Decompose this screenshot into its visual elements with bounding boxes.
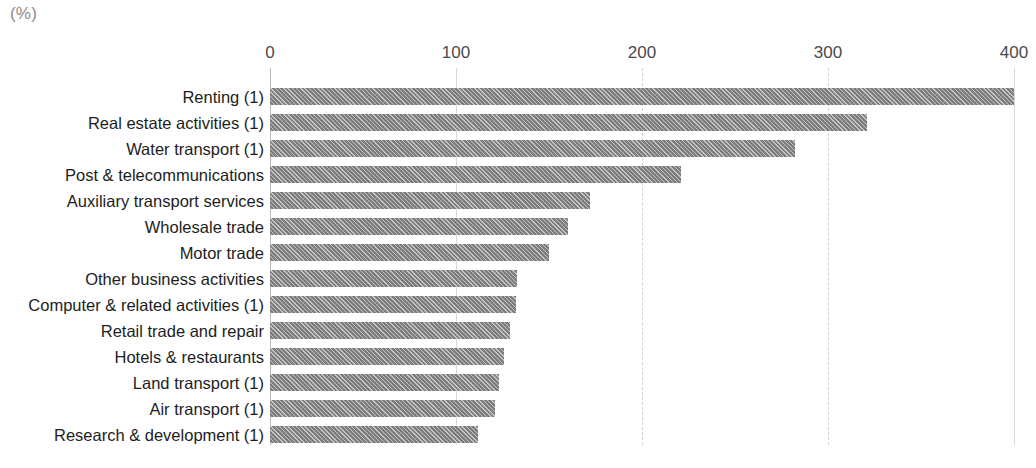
x-tick-label-300: 300 [814,43,842,63]
bar-row: Wholesale trade [0,214,1036,240]
x-tick-label-100: 100 [442,43,470,63]
x-tick-label-0: 0 [265,43,274,63]
bar-row: Motor trade [0,240,1036,266]
bar-category-label: Air transport (1) [149,396,264,422]
bar-row: Renting (1) [0,84,1036,110]
bar-category-label: Real estate activities (1) [88,110,264,136]
bar [270,192,590,209]
bar-category-label: Hotels & restaurants [115,344,264,370]
bar [270,296,516,313]
bar-category-label: Auxiliary transport services [67,188,264,214]
bar-row: Retail trade and repair [0,318,1036,344]
bar-category-label: Water transport (1) [126,136,264,162]
bar [270,374,499,391]
bar-row: Land transport (1) [0,370,1036,396]
bar [270,140,795,157]
x-tick-label-200: 200 [628,43,656,63]
bar-row: Water transport (1) [0,136,1036,162]
bar-category-label: Research & development (1) [54,422,264,448]
bar-row: Auxiliary transport services [0,188,1036,214]
bar-row: Post & telecommunications [0,162,1036,188]
bar-row: Air transport (1) [0,396,1036,422]
bar [270,244,549,261]
bar [270,348,504,365]
bar-row: Other business activities [0,266,1036,292]
bar-row: Hotels & restaurants [0,344,1036,370]
bar-row: Research & development (1) [0,422,1036,448]
bar [270,426,478,443]
bar-category-label: Wholesale trade [145,214,264,240]
x-tick-label-400: 400 [1000,43,1028,63]
bar [270,88,1014,105]
bar [270,400,495,417]
bar-row: Real estate activities (1) [0,110,1036,136]
bar-row: Computer & related activities (1) [0,292,1036,318]
bar-category-label: Retail trade and repair [101,318,264,344]
bar-category-label: Other business activities [85,266,264,292]
bar-category-label: Land transport (1) [133,370,264,396]
bar-category-label: Renting (1) [182,84,264,110]
bar [270,166,681,183]
bar [270,322,510,339]
bar-category-label: Post & telecommunications [65,162,264,188]
bar-category-label: Computer & related activities (1) [28,292,264,318]
bar-chart-plot: 0100200300400 Renting (1)Real estate act… [0,0,1036,468]
bar [270,114,867,131]
bar-rows: Renting (1)Real estate activities (1)Wat… [0,84,1036,448]
bar [270,270,517,287]
bar [270,218,568,235]
bar-category-label: Motor trade [180,240,264,266]
